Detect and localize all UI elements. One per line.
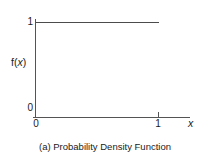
figure-probability-density-function: 1 0 0 1 f(x) x (a) Probability Density F… (0, 0, 210, 161)
plot-area: 1 0 0 1 f(x) x (0, 0, 210, 140)
y-axis-tick-label-0: 0 (22, 103, 33, 113)
x-axis-tick-label-0: 0 (31, 119, 41, 129)
x-axis-tick-label-1: 1 (153, 119, 163, 129)
y-axis-title: f(x) (11, 57, 26, 68)
y-axis-title-suffix: ) (23, 56, 27, 68)
x-axis-title: x (188, 118, 193, 129)
y-axis-tick-label-1: 1 (22, 17, 33, 27)
figure-caption: (a) Probability Density Function (0, 141, 210, 153)
